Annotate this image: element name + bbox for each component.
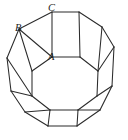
polyhedron-diagram <box>0 0 128 140</box>
face-triangle-lower-left <box>25 110 50 126</box>
face-top-square <box>52 12 80 57</box>
diagram-canvas: A B C <box>0 0 128 140</box>
vertex-label-A: A <box>48 52 54 63</box>
vertex-label-C: C <box>48 3 55 14</box>
vertex-label-B: B <box>15 23 21 34</box>
face-bottom-square <box>48 110 78 126</box>
